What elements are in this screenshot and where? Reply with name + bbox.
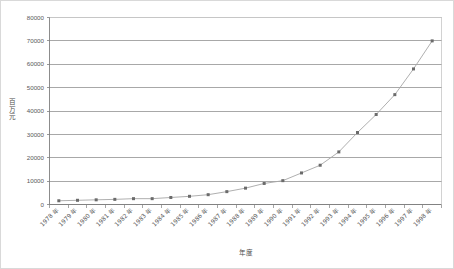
x-axis-tick-label: 1991 年	[281, 206, 303, 228]
x-axis-tick-label: 1997 年	[393, 206, 415, 228]
y-axis-tick-label: 0	[41, 201, 45, 208]
x-axis-tick-label: 1993 年	[318, 206, 340, 228]
x-axis-tick-label: 1985 年	[169, 206, 191, 228]
x-axis-labels-group: 1978 年1979 年1980 年1981 年1982 年1983 年1984…	[38, 205, 441, 229]
data-point-marker[interactable]	[151, 197, 154, 200]
data-point-marker[interactable]	[132, 197, 135, 200]
y-axis-title-char: 元	[9, 113, 16, 121]
y-axis-tick-label: 50000	[27, 84, 45, 91]
data-point-marker[interactable]	[412, 67, 415, 70]
x-axis-tick-label: 1995 年	[356, 206, 378, 228]
x-axis-tick-label: 1996 年	[374, 206, 396, 228]
x-axis-tick-label: 1987 年	[206, 206, 228, 228]
data-point-marker[interactable]	[263, 182, 266, 185]
x-axis-tick-label: 1982 年	[113, 206, 135, 228]
y-axis-tick-label: 30000	[27, 131, 45, 138]
x-axis-tick-label: 1990 年	[262, 206, 284, 228]
data-point-marker[interactable]	[57, 199, 60, 202]
data-point-marker[interactable]	[431, 39, 434, 42]
y-axis-tick-label: 40000	[27, 107, 45, 114]
data-point-marker[interactable]	[337, 150, 340, 153]
x-axis-tick-label: 1994 年	[337, 206, 359, 228]
x-axis-tick-label: 1979 年	[57, 206, 79, 228]
y-axis-tick-label: 20000	[27, 154, 45, 161]
data-point-marker[interactable]	[188, 195, 191, 198]
x-axis-tick-label: 1983 年	[132, 206, 154, 228]
x-axis-tick-label: 1992 年	[300, 206, 322, 228]
data-point-marker[interactable]	[207, 193, 210, 196]
x-axis-tick-label: 1989 年	[244, 206, 266, 228]
data-point-marker[interactable]	[113, 198, 116, 201]
y-axis-title: 百万元	[9, 98, 16, 121]
chart-figure: 0100002000030000400005000060000700008000…	[0, 0, 454, 269]
data-point-marker[interactable]	[169, 196, 172, 199]
data-point-marker[interactable]	[356, 131, 359, 134]
y-axis-tick-label: 60000	[27, 60, 45, 67]
data-point-marker[interactable]	[225, 190, 228, 193]
y-axis-tick-label: 10000	[27, 177, 45, 184]
line-chart-canvas: 0100002000030000400005000060000700008000…	[1, 1, 454, 269]
data-point-marker[interactable]	[281, 179, 284, 182]
x-axis-tick-label: 1978 年	[38, 206, 60, 228]
data-point-marker[interactable]	[319, 164, 322, 167]
x-axis-tick-label: 1984 年	[150, 206, 172, 228]
data-point-marker[interactable]	[95, 198, 98, 201]
x-axis-tick-label: 1981 年	[94, 206, 116, 228]
data-point-marker[interactable]	[375, 113, 378, 116]
data-point-marker[interactable]	[244, 187, 247, 190]
x-axis-tick-label: 1986 年	[188, 206, 210, 228]
data-point-marker[interactable]	[300, 171, 303, 174]
x-axis-tick-label: 1998 年	[412, 206, 434, 228]
x-axis-tick-label: 1988 年	[225, 206, 247, 228]
data-point-marker[interactable]	[76, 199, 79, 202]
x-axis-tick-label: 1980 年	[76, 206, 98, 228]
y-axis-tick-label: 70000	[27, 37, 45, 44]
data-point-marker[interactable]	[393, 93, 396, 96]
y-axis-tick-label: 80000	[27, 14, 45, 21]
x-axis-title: 年度	[239, 248, 253, 257]
